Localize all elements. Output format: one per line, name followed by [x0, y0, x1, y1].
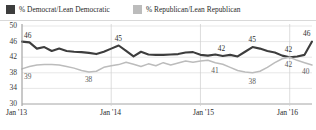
party-identification-trend-chart: % Democrat/Lean Democratic % Republican/…: [0, 0, 316, 130]
legend-item-republican[interactable]: % Republican/Lean Republican: [133, 3, 241, 16]
rep-point-label-38: 38: [85, 75, 92, 84]
rep-point-label-38: 38: [249, 77, 256, 86]
y-tick-38: 38: [3, 68, 17, 77]
gridlines: [22, 26, 312, 104]
rep-point-label-40: 40: [302, 67, 309, 76]
y-tick-46: 46: [3, 37, 17, 46]
dem-point-label-46: 46: [303, 29, 310, 38]
legend-swatch-republican: [133, 5, 142, 14]
legend-divider: [0, 20, 316, 21]
legend-swatch-democrat: [6, 5, 15, 14]
legend-item-democrat[interactable]: % Democrat/Lean Democratic: [6, 3, 110, 16]
dem-point-label-42: 42: [285, 45, 292, 54]
legend-label-democrat: % Democrat/Lean Democratic: [19, 5, 110, 14]
chart-legend: % Democrat/Lean Democratic % Republican/…: [0, 0, 316, 20]
x-tick-jan-16: Jan '16: [277, 108, 298, 117]
rep-point-label-42: 42: [285, 60, 292, 69]
x-tick-jan-15: Jan '15: [193, 108, 214, 117]
x-axis-tick-labels: Jan '13 Jan '14 Jan '15 Jan '16: [0, 108, 316, 122]
x-tick-jan-13: Jan '13: [6, 108, 27, 117]
rep-point-label-39: 39: [24, 72, 31, 81]
rep-point-label-41: 41: [211, 66, 218, 75]
y-tick-30: 30: [3, 99, 17, 108]
legend-label-republican: % Republican/Lean Republican: [146, 5, 241, 14]
x-tick-jan-14: Jan '14: [100, 108, 121, 117]
plot-svg: [0, 22, 316, 108]
dem-point-label-46: 46: [24, 31, 31, 40]
dem-point-label-42: 42: [218, 44, 225, 53]
dem-point-label-45: 45: [115, 34, 122, 43]
plot-area: 504642383430 464542454246393841384240: [0, 22, 316, 108]
dem-point-label-45: 45: [249, 35, 256, 44]
y-tick-50: 50: [3, 21, 17, 30]
y-tick-42: 42: [3, 52, 17, 61]
y-tick-34: 34: [3, 83, 17, 92]
